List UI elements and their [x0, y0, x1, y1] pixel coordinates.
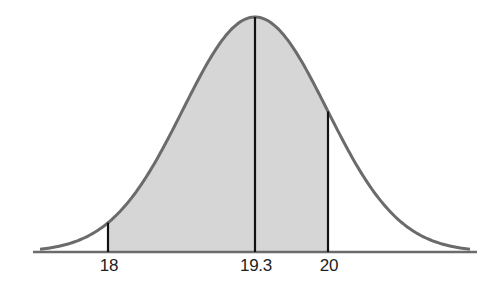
tick-label-19-3: 19.3: [240, 256, 272, 276]
tick-label-18: 18: [100, 256, 118, 276]
distribution-svg: [0, 0, 492, 295]
tick-label-20: 20: [320, 256, 338, 276]
normal-distribution-diagram: 18 19.3 20: [0, 0, 492, 295]
